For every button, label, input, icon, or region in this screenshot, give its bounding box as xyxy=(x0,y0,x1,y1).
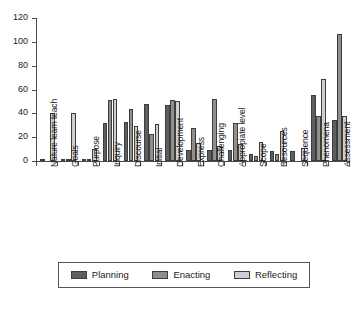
legend-item-planning: Planning xyxy=(71,270,129,280)
bar-enacting xyxy=(254,156,259,161)
bar-planning xyxy=(249,154,254,161)
x-axis-tick xyxy=(161,162,162,166)
bar-enacting xyxy=(87,159,92,161)
bar-reflecting xyxy=(321,79,326,161)
bar-reflecting xyxy=(217,146,222,161)
bar-enacting xyxy=(129,109,134,161)
x-axis-tick xyxy=(182,162,183,166)
plot-area xyxy=(36,18,349,161)
x-axis-tick xyxy=(349,162,350,166)
x-axis-tick xyxy=(119,162,120,166)
bar-reflecting xyxy=(259,142,264,161)
legend-label-planning: Planning xyxy=(92,270,129,280)
bar-reflecting xyxy=(155,124,160,161)
bar-planning xyxy=(207,150,212,161)
bar-planning xyxy=(311,95,316,161)
bar-planning xyxy=(40,159,45,161)
bar-group xyxy=(82,18,97,161)
bar-group xyxy=(40,18,55,161)
bar-group xyxy=(165,18,180,161)
bar-enacting xyxy=(316,116,321,161)
bar-reflecting xyxy=(280,131,285,161)
y-axis-tick-label: 40 xyxy=(0,108,28,117)
bar-group xyxy=(186,18,201,161)
y-axis-tick-label: 60 xyxy=(0,85,28,94)
bar-enacting xyxy=(170,100,175,161)
bar-planning xyxy=(270,151,275,161)
bar-reflecting xyxy=(50,113,55,161)
bar-enacting xyxy=(191,128,196,161)
bar-enacting xyxy=(108,100,113,161)
y-axis-tick-label: 120 xyxy=(0,13,28,22)
legend-item-reflecting: Reflecting xyxy=(234,270,297,280)
bar-enacting xyxy=(66,159,71,161)
bar-group xyxy=(332,18,347,161)
legend-swatch-enacting xyxy=(152,271,168,279)
bar-planning xyxy=(332,120,337,161)
y-axis-tick-label: 100 xyxy=(0,37,28,46)
y-axis-tick-label: 20 xyxy=(0,132,28,141)
bar-planning xyxy=(144,104,149,161)
bar-planning xyxy=(124,122,129,161)
bar-enacting xyxy=(149,134,154,161)
x-axis-tick xyxy=(224,162,225,166)
legend-swatch-reflecting xyxy=(234,271,250,279)
bar-chart: 020406080100120 Nature learn teachGoalsP… xyxy=(0,0,355,310)
x-axis-tick xyxy=(245,162,246,166)
bar-group xyxy=(61,18,76,161)
bar-group xyxy=(228,18,243,161)
legend-label-enacting: Enacting xyxy=(173,270,210,280)
legend-label-reflecting: Reflecting xyxy=(255,270,297,280)
bar-group xyxy=(124,18,139,161)
x-axis-tick xyxy=(286,162,287,166)
x-axis-line xyxy=(36,161,350,162)
bar-group xyxy=(144,18,159,161)
bar-group xyxy=(207,18,222,161)
bar-group xyxy=(249,18,264,161)
x-axis-tick xyxy=(57,162,58,166)
bar-reflecting xyxy=(134,126,139,161)
bar-planning xyxy=(82,159,87,161)
bar-reflecting xyxy=(92,149,97,161)
x-axis-tick xyxy=(99,162,100,166)
bar-reflecting xyxy=(342,116,347,161)
bar-enacting xyxy=(337,34,342,162)
bar-group xyxy=(103,18,118,161)
chart-legend: Planning Enacting Reflecting xyxy=(58,262,310,288)
bar-planning xyxy=(61,159,66,161)
bar-reflecting xyxy=(238,144,243,161)
bar-reflecting xyxy=(113,99,118,161)
legend-swatch-planning xyxy=(71,271,87,279)
x-axis-tick xyxy=(36,162,37,166)
bar-reflecting xyxy=(301,148,306,161)
x-axis-tick xyxy=(78,162,79,166)
x-axis-tick xyxy=(307,162,308,166)
bar-reflecting xyxy=(196,143,201,161)
y-axis-tick-label: 80 xyxy=(0,61,28,70)
bar-planning xyxy=(290,151,295,161)
bar-group xyxy=(270,18,285,161)
bar-enacting xyxy=(275,154,280,161)
bar-planning xyxy=(228,150,233,161)
bar-reflecting xyxy=(71,113,76,161)
x-axis-tick xyxy=(140,162,141,166)
legend-item-enacting: Enacting xyxy=(152,270,210,280)
bar-planning xyxy=(165,105,170,161)
y-axis-tick-label: 0 xyxy=(0,156,28,165)
bar-reflecting xyxy=(175,101,180,161)
bar-group xyxy=(290,18,305,161)
bar-planning xyxy=(103,123,108,161)
bar-enacting xyxy=(233,123,238,161)
bar-group xyxy=(311,18,326,161)
x-axis-tick xyxy=(266,162,267,166)
bar-planning xyxy=(186,150,191,161)
x-axis-tick xyxy=(203,162,204,166)
bar-enacting xyxy=(212,99,217,161)
x-axis-tick xyxy=(328,162,329,166)
